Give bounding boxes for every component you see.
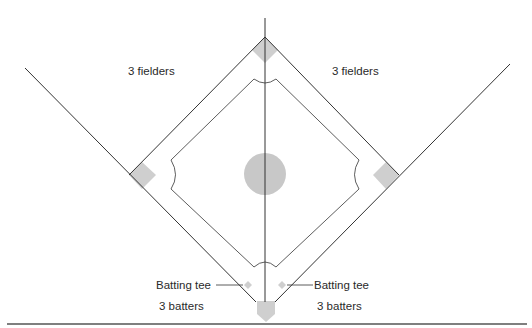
- label-batters-right: 3 batters: [317, 300, 362, 312]
- label-tee-right: Batting tee: [314, 279, 369, 291]
- label-fielders-left: 3 fielders: [128, 65, 175, 77]
- baseball-field-diagram: 3 fielders 3 fielders Batting tee Battin…: [0, 0, 532, 328]
- first-base: [373, 162, 399, 189]
- label-tee-left: Batting tee: [156, 279, 211, 291]
- batting-tee-left: [244, 281, 252, 289]
- home-plate: [257, 301, 275, 322]
- label-batters-left: 3 batters: [159, 300, 204, 312]
- batting-tee-right: [278, 281, 286, 289]
- label-fielders-right: 3 fielders: [332, 65, 379, 77]
- third-base: [129, 162, 156, 189]
